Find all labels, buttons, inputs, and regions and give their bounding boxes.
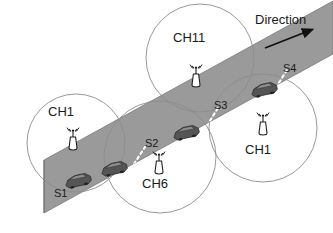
segment-label-s1: S1 — [54, 187, 67, 199]
channel-label-ch6: CH6 — [142, 176, 168, 191]
diagram-canvas: CH1 CH6 CH11 CH1 S1 S2 S3 S4 Direction — [0, 0, 333, 233]
antenna-icon-ch6 — [153, 152, 165, 174]
segment-label-s2: S2 — [145, 137, 158, 149]
channel-label-ch1-left: CH1 — [48, 104, 74, 119]
segment-label-s4: S4 — [283, 62, 296, 74]
channel-label-ch11: CH11 — [173, 30, 205, 45]
direction-label: Direction — [255, 12, 306, 27]
antenna-icon-ch1-left — [67, 128, 79, 150]
antenna-icon-ch1-right — [257, 113, 269, 135]
segment-label-s3: S3 — [214, 99, 227, 111]
channel-label-ch1-right: CH1 — [245, 142, 271, 157]
